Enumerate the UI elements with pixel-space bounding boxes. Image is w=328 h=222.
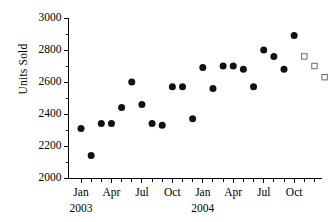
data-points-forecast [302, 54, 328, 80]
actual-data-point [220, 63, 227, 70]
chart-canvas: 200022002400260028003000 JanAprJulOctJan… [0, 0, 328, 222]
y-axis-ticks [64, 18, 69, 178]
data-points-actual [78, 32, 298, 159]
actual-data-point [199, 64, 206, 71]
actual-data-point [159, 122, 166, 129]
actual-data-point [260, 47, 267, 54]
x-axis: JanAprJulOctJanAprJulOct 20032004 [69, 179, 323, 215]
actual-data-point [118, 104, 125, 111]
actual-data-point [128, 79, 135, 86]
x-axis-ticks [81, 179, 314, 184]
forecast-data-point [312, 63, 317, 68]
x-axis-year-label: 2004 [191, 202, 214, 214]
actual-data-point [250, 83, 257, 90]
y-axis-tick-label: 2000 [39, 171, 62, 183]
y-axis-tick-label: 2400 [39, 107, 62, 119]
x-axis-year-label: 2003 [70, 202, 93, 214]
y-axis: 200022002400260028003000 [39, 11, 69, 183]
forecast-data-point [302, 54, 307, 59]
x-axis-tick-label: Jan [195, 186, 211, 198]
actual-data-point [149, 120, 156, 127]
y-axis-tick-labels: 200022002400260028003000 [39, 11, 62, 183]
y-axis-tick-label: 2800 [39, 43, 62, 55]
actual-data-point [88, 152, 95, 159]
actual-data-point [270, 53, 277, 60]
forecast-data-point [322, 75, 327, 80]
x-axis-tick-label: Jan [73, 186, 89, 198]
y-axis-tick-label: 3000 [39, 11, 62, 23]
x-axis-tick-label: Apr [103, 186, 121, 199]
x-axis-year-labels: 20032004 [70, 202, 215, 214]
actual-data-point [209, 85, 216, 92]
x-axis-tick-label: Oct [164, 186, 181, 198]
actual-data-point [240, 66, 247, 73]
actual-data-point [291, 32, 298, 39]
x-axis-tick-label: Apr [224, 186, 242, 199]
x-axis-tick-label: Jul [257, 186, 270, 198]
actual-data-point [138, 101, 145, 108]
x-axis-tick-label: Jul [135, 186, 148, 198]
actual-data-point [230, 63, 237, 70]
actual-data-point [281, 66, 288, 73]
x-axis-tick-label: Oct [286, 186, 303, 198]
y-axis-tick-label: 2200 [39, 139, 62, 151]
actual-data-point [169, 83, 176, 90]
x-axis-tick-labels: JanAprJulOctJanAprJulOct [73, 186, 303, 199]
actual-data-point [98, 120, 105, 127]
actual-data-point [108, 120, 115, 127]
actual-data-point [78, 125, 85, 132]
y-axis-tick-label: 2600 [39, 75, 62, 87]
scatter-chart: Units Sold 200022002400260028003000 JanA… [0, 0, 328, 222]
actual-data-point [179, 83, 186, 90]
actual-data-point [189, 115, 196, 122]
